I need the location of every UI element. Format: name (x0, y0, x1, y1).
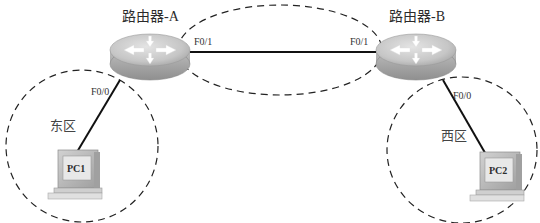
pc2-label: PC2 (489, 166, 507, 176)
router-b-label: 路由器-B (389, 10, 445, 24)
wan-link-boundary (178, 5, 382, 95)
pc1-icon[interactable] (48, 150, 102, 199)
east-zone-label: 东区 (50, 119, 76, 132)
network-topology-diagram: 路由器-A 路由器-B F0/1 F0/0 F0/1 F0/0 东区 西区 PC… (0, 0, 540, 223)
router-a-icon[interactable] (110, 34, 190, 80)
router-b-icon[interactable] (376, 34, 456, 80)
router-b-port-f01-label: F0/1 (350, 37, 368, 47)
router-a-port-f00-label: F0/0 (91, 87, 109, 97)
diagram-graphics (0, 0, 540, 223)
pc1-label: PC1 (67, 164, 85, 174)
router-a-label: 路由器-A (122, 10, 179, 24)
router-a-port-f01-label: F0/1 (194, 37, 212, 47)
west-zone-label: 西区 (441, 129, 467, 142)
router-b-port-f00-label: F0/0 (453, 91, 471, 101)
pc2-icon[interactable] (470, 152, 524, 201)
